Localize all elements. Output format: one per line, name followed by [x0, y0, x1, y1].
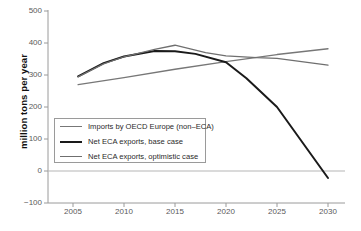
legend-item: Net ECA exports, base case: [55, 134, 205, 149]
series-line: [78, 45, 328, 77]
legend-label: Net ECA exports, optimistic case: [88, 153, 198, 161]
chart-legend: Imports by OECD Europe (non–ECA) Net ECA…: [54, 118, 206, 163]
plot-area: [0, 0, 361, 231]
legend-item: Imports by OECD Europe (non–ECA): [55, 119, 205, 134]
chart-figure: million tons per year 500 400 300 200 10…: [0, 0, 361, 231]
x-axis-ticks: [73, 203, 328, 207]
legend-label: Imports by OECD Europe (non–ECA): [88, 123, 214, 131]
legend-swatch-line: [60, 156, 82, 157]
series-line: [78, 49, 328, 85]
legend-item: Net ECA exports, optimistic case: [55, 149, 205, 164]
y-axis-ticks: [44, 11, 48, 203]
legend-swatch-line: [60, 126, 82, 127]
legend-label: Net ECA exports, base case: [88, 138, 183, 146]
axis-lines: [48, 10, 345, 203]
legend-swatch-line: [60, 141, 82, 143]
